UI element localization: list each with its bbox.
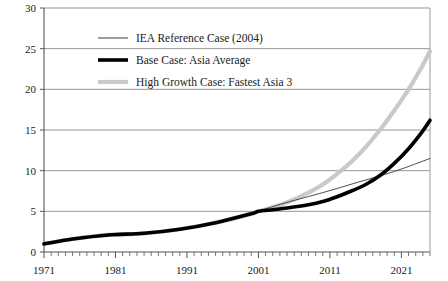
y-tick-label-25: 25: [25, 43, 37, 55]
y-tick-label-10: 10: [25, 165, 37, 177]
y-tick-label-20: 20: [25, 83, 37, 95]
y-tick-label-5: 5: [31, 205, 37, 217]
y-tick-label-15: 15: [25, 124, 37, 136]
legend-label-1: Base Case: Asia Average: [136, 54, 250, 67]
x-tick-label-2011: 2011: [319, 264, 341, 276]
chart-container: 051015202530 197119811991200120112021 IE…: [0, 0, 448, 281]
legend-label-0: IEA Reference Case (2004): [136, 32, 263, 45]
y-tick-label-0: 0: [31, 246, 37, 258]
x-tick-label-2021: 2021: [390, 264, 412, 276]
y-tick-label-30: 30: [25, 2, 37, 14]
x-tick-label-2001: 2001: [247, 264, 269, 276]
x-tick-label-1991: 1991: [176, 264, 198, 276]
legend-label-2: High Growth Case: Fastest Asia 3: [136, 76, 292, 89]
line-chart: 051015202530 197119811991200120112021 IE…: [0, 0, 448, 281]
x-tick-label-1981: 1981: [104, 264, 126, 276]
x-tick-label-1971: 1971: [33, 264, 55, 276]
